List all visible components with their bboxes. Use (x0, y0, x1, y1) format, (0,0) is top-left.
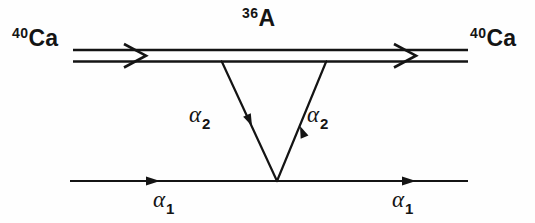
top-left-open-arrowhead (124, 44, 146, 68)
alpha1-right-arrowhead (402, 176, 416, 185)
top-right-open-arrowhead (394, 44, 416, 68)
label-alpha1-left: α1 (153, 188, 174, 216)
label-outgoing-nucleus: 40Ca (470, 26, 516, 50)
label-alpha1-right: α1 (392, 188, 413, 216)
label-intermediate-nucleus-mass: 36 (242, 5, 259, 21)
label-alpha2-right-subscript: 2 (320, 115, 328, 132)
label-alpha2-right-glyph: α (307, 102, 319, 127)
reaction-diagram-canvas: 40Ca 36A 40Ca α2 α2 α1 α1 (0, 0, 535, 223)
label-alpha2-left-subscript: 2 (202, 115, 210, 132)
label-incoming-nucleus-mass: 40 (12, 25, 29, 41)
diagram-vector-layer (0, 0, 535, 223)
label-intermediate-nucleus: 36A (242, 6, 275, 30)
label-incoming-nucleus: 40Ca (12, 26, 58, 50)
label-alpha1-right-subscript: 1 (405, 200, 413, 217)
label-alpha1-left-subscript: 1 (166, 200, 174, 217)
label-alpha2-right: α2 (307, 103, 328, 131)
label-outgoing-nucleus-mass: 40 (470, 25, 487, 41)
label-alpha2-left-glyph: α (189, 102, 201, 127)
alpha2-left-arrowhead (243, 113, 256, 127)
label-incoming-nucleus-symbol: Ca (29, 25, 58, 51)
label-alpha1-left-glyph: α (153, 187, 165, 212)
label-outgoing-nucleus-symbol: Ca (487, 25, 516, 51)
alpha1-left-arrowhead (146, 176, 160, 185)
label-alpha1-right-glyph: α (392, 187, 404, 212)
label-alpha2-left: α2 (189, 103, 210, 131)
label-intermediate-nucleus-symbol: A (259, 5, 276, 31)
